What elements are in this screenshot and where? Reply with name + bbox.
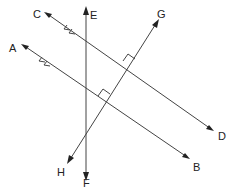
label-f: F <box>83 177 90 189</box>
label-g: G <box>157 8 166 20</box>
line-cd <box>44 12 214 131</box>
line-ef <box>83 6 89 181</box>
label-a: A <box>9 42 17 54</box>
label-c: C <box>33 8 41 20</box>
arrowhead-c-icon <box>44 12 52 18</box>
label-d: D <box>218 130 226 142</box>
arrowhead-g-icon <box>152 19 159 28</box>
line-ab <box>21 44 190 159</box>
diagram-svg: C E G A D B H F <box>0 0 232 190</box>
label-b: B <box>193 161 200 173</box>
arrowhead-h-icon <box>67 155 74 164</box>
line-gh <box>67 19 159 164</box>
geometry-diagram: C E G A D B H F <box>0 0 232 190</box>
arrowhead-e-icon <box>83 6 89 15</box>
right-angle-mark-icon <box>98 89 110 96</box>
label-h: H <box>57 166 65 178</box>
label-e: E <box>90 9 97 21</box>
arrowhead-a-icon <box>21 44 29 50</box>
